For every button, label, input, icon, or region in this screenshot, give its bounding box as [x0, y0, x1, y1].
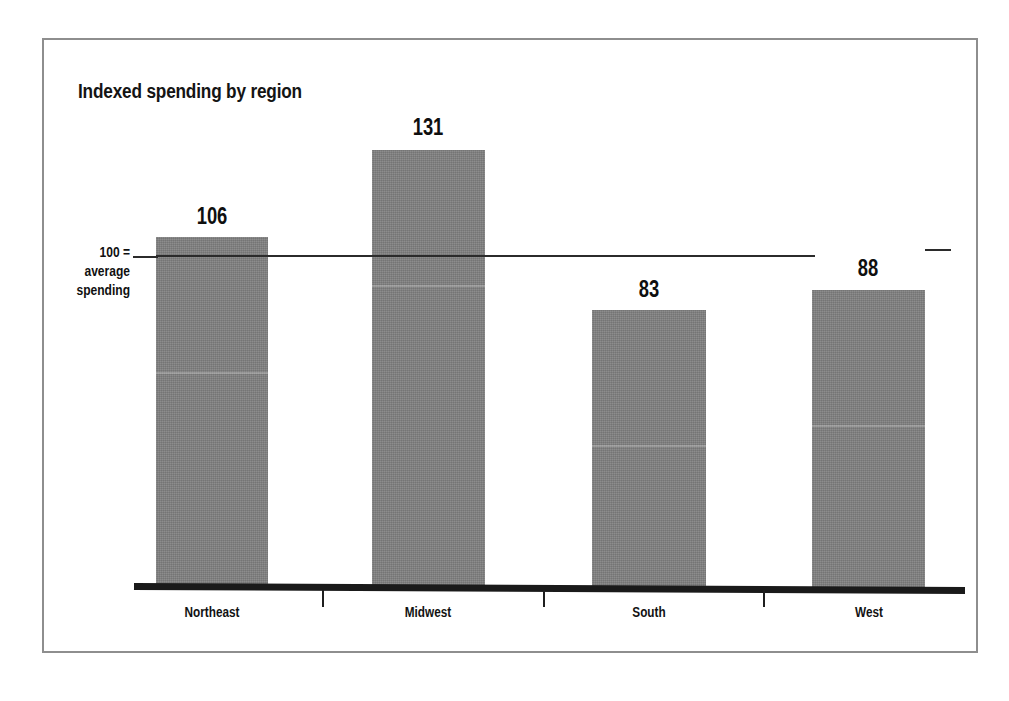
- chart-title: Indexed spending by region: [78, 80, 302, 103]
- value-label-northeast: 106: [172, 203, 252, 230]
- category-label-south: South: [599, 604, 700, 620]
- bar-midwest: [372, 150, 485, 588]
- reference-line-leader-dash: [133, 256, 158, 258]
- value-label-west: 88: [828, 255, 908, 282]
- value-label-midwest: 131: [388, 114, 468, 141]
- reference-annotation-line-1: 100 =: [72, 243, 130, 262]
- chart-canvas: Indexed spending by region 100 = average…: [0, 0, 1009, 701]
- reference-annotation-line-3: spending: [72, 281, 130, 300]
- value-label-south: 83: [609, 276, 689, 303]
- category-label-midwest: Midwest: [378, 604, 479, 620]
- reference-line-100-tail: [925, 249, 951, 251]
- category-label-northeast: Northeast: [162, 604, 263, 620]
- bar-west: [812, 290, 925, 588]
- axis-tick-2: [543, 590, 545, 607]
- reference-annotation-line-2: average: [72, 262, 130, 281]
- reference-line-100: [156, 255, 815, 257]
- axis-tick-1: [322, 590, 324, 607]
- bar-south: [592, 310, 706, 588]
- reference-line-annotation: 100 = average spending: [72, 243, 130, 300]
- bar-northeast: [156, 237, 268, 588]
- axis-tick-3: [763, 590, 765, 607]
- category-label-west: West: [819, 604, 920, 620]
